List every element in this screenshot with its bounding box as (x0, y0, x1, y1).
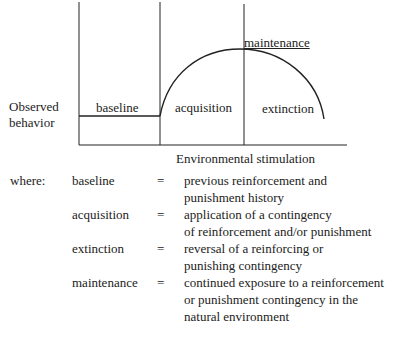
legend-term-baseline: baseline (72, 172, 115, 189)
diagram-lines (0, 0, 406, 170)
legend-equals: = (157, 172, 164, 189)
legend-term-maintenance: maintenance (72, 274, 138, 291)
legend-def-baseline-1: previous reinforcement and (184, 172, 327, 189)
phase-label-baseline: baseline (96, 100, 139, 116)
legend-def-maintenance-1: continued exposure to a reinforcement (184, 274, 384, 291)
legend-intro: where: (10, 172, 45, 189)
y-axis-label-line2: behavior (9, 115, 54, 131)
legend-equals: = (157, 240, 164, 257)
legend-term-extinction: extinction (72, 240, 124, 257)
phase-label-extinction: extinction (262, 101, 314, 117)
legend-equals: = (157, 274, 164, 291)
legend-def-acquisition-2: of reinforcement and/or punishment (184, 223, 371, 240)
legend-def-maintenance-3: natural environment (184, 308, 289, 325)
phase-label-maintenance: maintenance (244, 35, 310, 51)
legend-def-extinction-2: punishing contingency (184, 257, 302, 274)
phase-label-acquisition: acquisition (175, 100, 232, 116)
behavior-phase-diagram: Observed behavior baseline acquisition m… (0, 0, 406, 170)
legend-def-extinction-1: reversal of a reinforcing or (184, 240, 323, 257)
legend-def-acquisition-1: application of a contingency (184, 206, 332, 223)
legend-equals: = (157, 206, 164, 223)
x-axis-label: Environmental stimulation (176, 151, 315, 167)
legend-def-maintenance-2: or punishment contingency in the (184, 291, 358, 308)
legend-def-baseline-2: punishment history (184, 189, 284, 206)
y-axis-label-line1: Observed (9, 99, 59, 115)
legend-term-acquisition: acquisition (72, 206, 129, 223)
